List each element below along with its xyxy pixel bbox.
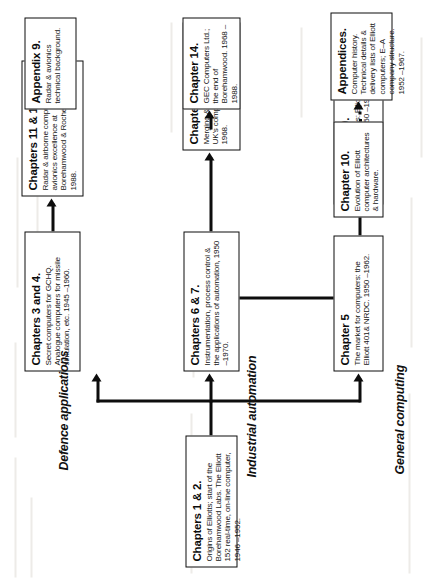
node-body: Evolution of Elliott computer architectu… — [352, 127, 380, 211]
node-title: Appendices. — [335, 18, 348, 94]
node-body: GEC Computers Ltd.; the end of Borehamwo… — [201, 23, 239, 103]
node-appendices[interactable]: Appendices. Computer history. Technical … — [330, 12, 392, 100]
flowchart-right-column: Appendix 9. Radar & avionics technical b… — [0, 0, 445, 587]
arrowhead-to-appendices — [353, 101, 363, 109]
node-body: Radar & avionics technical background. — [43, 23, 62, 103]
arrowhead-to-chapter-14 — [204, 110, 214, 118]
node-body: Computer history. Technical details & de… — [349, 18, 405, 94]
node-appendix-9[interactable]: Appendix 9. Radar & avionics technical b… — [24, 17, 76, 109]
node-title: Chapter 14. — [187, 23, 200, 103]
node-title: Appendix 9. — [29, 23, 42, 103]
node-chapter-14[interactable]: Chapter 14. GEC Computers Ltd.; the end … — [182, 17, 240, 109]
node-chapter-10[interactable]: Chapter 10. Evolution of Elliott compute… — [333, 121, 383, 217]
node-title: Chapter 10. — [338, 127, 351, 211]
